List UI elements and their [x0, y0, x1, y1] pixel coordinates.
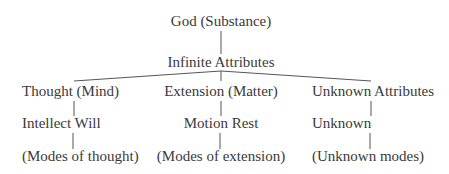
- edge-attributes-unknown: [221, 71, 371, 81]
- edge-attributes-thought: [74, 71, 221, 81]
- node-modes-of-thought: (Modes of thought): [22, 148, 139, 165]
- node-thought-mind: Thought (Mind): [22, 83, 119, 100]
- node-infinite-attributes: Infinite Attributes: [167, 54, 274, 70]
- node-extension-matter: Extension (Matter): [164, 83, 278, 100]
- node-unknown-attributes: Unknown Attributes: [312, 83, 434, 99]
- spinoza-ontology-diagram: God (Substance) Infinite Attributes Thou…: [0, 0, 449, 174]
- node-unknown-modes: (Unknown modes): [312, 148, 424, 165]
- node-modes-of-extension: (Modes of extension): [157, 148, 285, 165]
- node-motion-rest: Motion Rest: [184, 115, 259, 131]
- node-god-substance: God (Substance): [171, 13, 271, 30]
- node-intellect-will: Intellect Will: [22, 115, 101, 131]
- node-unknown: Unknown: [312, 115, 372, 131]
